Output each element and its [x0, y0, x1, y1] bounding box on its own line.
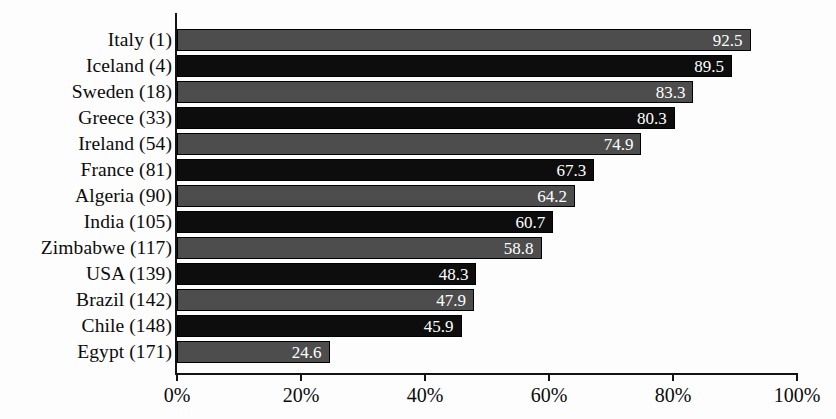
category-label: Greece (33)	[0, 108, 172, 128]
bar-value-label: 74.9	[604, 136, 641, 153]
category-label: Zimbabwe (117)	[0, 238, 172, 258]
category-label: Iceland (4)	[0, 56, 172, 76]
category-label: Ireland (54)	[0, 134, 172, 154]
bar-value-label: 80.3	[637, 110, 674, 127]
x-axis-tick	[176, 373, 178, 381]
x-axis-line	[175, 373, 797, 375]
bar: 60.7	[177, 211, 553, 233]
x-axis-tick	[424, 373, 426, 381]
bar: 83.3	[177, 81, 693, 103]
category-label: India (105)	[0, 212, 172, 232]
x-axis-tick	[300, 373, 302, 381]
category-label: Chile (148)	[0, 316, 172, 336]
bar: 64.2	[177, 185, 575, 207]
x-axis-tick-label: 0%	[164, 384, 191, 407]
plot-area: 92.589.583.380.374.967.364.260.758.848.3…	[177, 13, 797, 373]
bar: 58.8	[177, 237, 542, 259]
bar: 74.9	[177, 133, 641, 155]
category-label: France (81)	[0, 160, 172, 180]
category-label: Egypt (171)	[0, 342, 172, 362]
category-label: Sweden (18)	[0, 82, 172, 102]
x-axis-tick-label: 40%	[407, 384, 444, 407]
category-axis-labels: Italy (1)Iceland (4)Sweden (18)Greece (3…	[0, 16, 172, 372]
category-label: Brazil (142)	[0, 290, 172, 310]
bar-value-label: 67.3	[557, 162, 594, 179]
x-axis-tick	[672, 373, 674, 381]
bar-value-label: 60.7	[516, 214, 553, 231]
x-axis-tick	[796, 373, 798, 381]
bar-value-label: 47.9	[436, 292, 473, 309]
x-axis-tick-label: 80%	[655, 384, 692, 407]
bar-value-label: 48.3	[439, 266, 476, 283]
category-label: Italy (1)	[0, 30, 172, 50]
bar-chart: Italy (1)Iceland (4)Sweden (18)Greece (3…	[0, 0, 836, 419]
bar: 80.3	[177, 107, 675, 129]
bar-value-label: 83.3	[656, 84, 693, 101]
bar: 47.9	[177, 289, 474, 311]
bar-value-label: 24.6	[292, 344, 329, 361]
bar: 67.3	[177, 159, 594, 181]
bar-value-label: 45.9	[424, 318, 461, 335]
bar-value-label: 89.5	[694, 58, 731, 75]
bar: 92.5	[177, 29, 751, 51]
x-axis-tick	[548, 373, 550, 381]
bar-value-label: 64.2	[537, 188, 574, 205]
bar: 48.3	[177, 263, 476, 285]
x-axis-tick-label: 100%	[774, 384, 821, 407]
bar: 24.6	[177, 341, 330, 363]
bar: 45.9	[177, 315, 462, 337]
bar-value-label: 58.8	[504, 240, 541, 257]
category-label: Algeria (90)	[0, 186, 172, 206]
bar: 89.5	[177, 55, 732, 77]
x-axis-tick-label: 60%	[531, 384, 568, 407]
category-label: USA (139)	[0, 264, 172, 284]
bar-value-label: 92.5	[713, 32, 750, 49]
x-axis-tick-label: 20%	[283, 384, 320, 407]
